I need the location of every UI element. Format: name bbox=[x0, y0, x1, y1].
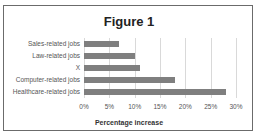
plot-area bbox=[84, 38, 236, 98]
bar bbox=[84, 41, 119, 47]
x-tick-label: 0% bbox=[79, 103, 88, 110]
category-label: Sales-related jobs bbox=[28, 40, 80, 48]
x-tick-label: 15% bbox=[153, 103, 166, 110]
gridline bbox=[236, 38, 237, 98]
bar bbox=[84, 53, 135, 59]
x-tick-label: 25% bbox=[204, 103, 217, 110]
x-tick-label: 30% bbox=[229, 103, 242, 110]
x-tick-label: 5% bbox=[105, 103, 114, 110]
bar bbox=[84, 89, 226, 95]
category-label: Healthcare-related jobs bbox=[13, 88, 80, 96]
category-label: Law-related jobs bbox=[32, 52, 80, 60]
category-label: X bbox=[76, 64, 80, 72]
x-tick-label: 20% bbox=[179, 103, 192, 110]
chart-title: Figure 1 bbox=[0, 14, 258, 29]
x-axis-label: Percentage increase bbox=[0, 119, 258, 126]
x-tick-label: 10% bbox=[128, 103, 141, 110]
bar bbox=[84, 65, 140, 71]
bar bbox=[84, 77, 175, 83]
category-label: Computer-related jobs bbox=[16, 76, 80, 84]
